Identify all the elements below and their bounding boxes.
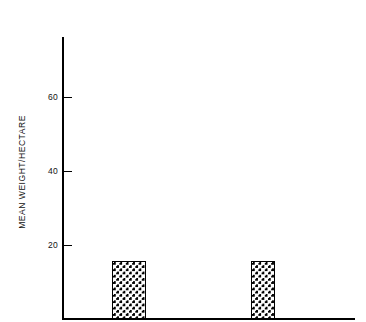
y-tick-mark-60 (64, 97, 72, 98)
y-tick-label-40: 40 (38, 166, 58, 176)
bar-livestock (112, 261, 146, 319)
y-tick-mark-40 (64, 171, 72, 172)
bar-chart: MEAN WEIGHT/HECTARE 60 40 20 LIVESTOCK H… (0, 27, 366, 292)
y-tick-mark-20 (64, 245, 72, 246)
y-axis-title: MEAN WEIGHT/HECTARE (17, 102, 27, 242)
y-tick-label-20: 20 (38, 240, 58, 250)
y-axis-line (62, 37, 64, 320)
bar-humans (251, 261, 275, 319)
y-tick-label-60: 60 (38, 92, 58, 102)
x-axis-line (62, 318, 355, 320)
